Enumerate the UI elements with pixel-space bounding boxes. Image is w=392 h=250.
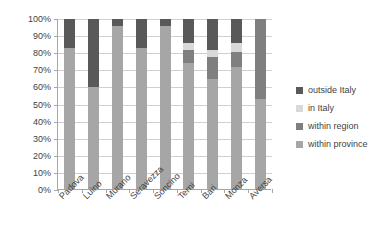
bar-segment[interactable] [183,19,194,43]
bar-segment[interactable] [231,43,242,52]
bar-group[interactable] [112,19,123,190]
legend-item[interactable]: within province [296,140,388,149]
bar-segment[interactable] [136,19,147,48]
y-axis-tick-label: 0% [38,185,51,195]
y-axis-tick-label: 60% [33,82,51,92]
y-axis-tick-label: 20% [33,151,51,161]
bar-segment[interactable] [207,57,218,79]
bar-group[interactable] [160,19,171,190]
bar-segment[interactable] [183,43,194,50]
x-axis-tick [272,189,273,193]
y-axis-tick-label: 90% [33,31,51,41]
stacked-bar[interactable] [112,19,123,190]
stacked-bar[interactable] [64,19,75,190]
bar-group[interactable] [255,19,266,190]
legend-swatch-icon [296,141,303,148]
bar-group[interactable] [231,19,242,190]
legend-swatch-icon [296,87,303,94]
bar-segment[interactable] [231,52,242,67]
bar-group[interactable] [88,19,99,190]
plot-area: 0%10%20%30%40%50%60%70%80%90%100% Padova… [57,19,271,190]
bar-segment[interactable] [207,50,218,57]
bar-segment[interactable] [255,19,266,99]
legend-item[interactable]: outside Italy [296,86,388,95]
y-axis-tick-label: 100% [28,14,51,24]
y-axis-tick-label: 70% [33,65,51,75]
bar-segment[interactable] [183,63,194,190]
y-axis-tick-label: 80% [33,48,51,58]
stacked-bar[interactable] [88,19,99,190]
bar-segment[interactable] [88,19,99,87]
bar-segment[interactable] [207,19,218,50]
stacked-bar[interactable] [207,19,218,190]
legend-item-label: within province [308,140,368,149]
stacked-bar[interactable] [231,19,242,190]
bar-segment[interactable] [136,48,147,190]
chart-legend: outside Italyin Italywithin regionwithin… [296,86,388,158]
legend-item-label: within region [308,122,359,131]
stacked-bar[interactable] [160,19,171,190]
bar-group[interactable] [136,19,147,190]
legend-swatch-icon [296,105,303,112]
bar-segment[interactable] [183,50,194,64]
y-axis-tick-label: 30% [33,134,51,144]
bar-group[interactable] [64,19,75,190]
bar-segment[interactable] [64,48,75,190]
bar-segment[interactable] [112,19,123,26]
stacked-bar-chart: 0%10%20%30%40%50%60%70%80%90%100% Padova… [0,0,392,250]
bar-group[interactable] [183,19,194,190]
legend-item[interactable]: within region [296,122,388,131]
legend-item[interactable]: in Italy [296,104,388,113]
legend-item-label: outside Italy [308,86,356,95]
bar-segment[interactable] [231,19,242,43]
bar-segment[interactable] [112,26,123,190]
bar-segment[interactable] [160,19,171,26]
y-axis-tick-label: 40% [33,117,51,127]
bar-group[interactable] [207,19,218,190]
legend-item-label: in Italy [308,104,334,113]
y-axis-tick-label: 10% [33,168,51,178]
stacked-bar[interactable] [136,19,147,190]
stacked-bar[interactable] [183,19,194,190]
bar-segment[interactable] [160,26,171,190]
stacked-bar[interactable] [255,19,266,190]
y-axis-tick-label: 50% [33,100,51,110]
bar-segment[interactable] [88,87,99,190]
bar-segment[interactable] [207,79,218,190]
bar-segment[interactable] [64,19,75,48]
legend-swatch-icon [296,123,303,130]
bars-layer [58,19,272,190]
bar-segment[interactable] [231,67,242,190]
